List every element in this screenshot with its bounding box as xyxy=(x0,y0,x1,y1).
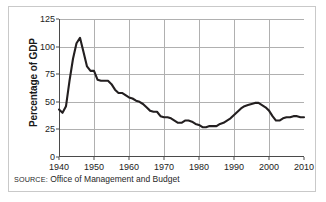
x-tick-mark xyxy=(304,157,305,160)
data-series-line xyxy=(59,19,304,157)
x-tick-mark xyxy=(94,157,95,160)
source-text: Office of Management and Budget xyxy=(50,174,179,184)
source-label: SOURCE: xyxy=(14,175,48,184)
x-tick-mark xyxy=(164,157,165,160)
y-tick-label: 75 xyxy=(45,69,55,79)
y-tick-label: 0 xyxy=(50,152,55,162)
x-tick-mark xyxy=(199,157,200,160)
x-tick-label: 2010 xyxy=(294,162,314,172)
y-tick-label: 100 xyxy=(40,42,55,52)
x-tick-label: 1980 xyxy=(189,162,209,172)
y-tick-label: 25 xyxy=(45,124,55,134)
y-tick-label: 125 xyxy=(40,14,55,24)
x-tick-label: 2000 xyxy=(259,162,279,172)
y-axis-title: Percentage of GDP xyxy=(28,23,39,143)
plot-area: 0255075100125 19401950196019701980199020… xyxy=(59,19,304,157)
x-tick-label: 1970 xyxy=(154,162,174,172)
chart-card: Percentage of GDP 0255075100125 19401950… xyxy=(11,9,313,189)
x-tick-mark xyxy=(129,157,130,160)
x-tick-label: 1940 xyxy=(49,162,69,172)
x-tick-label: 1950 xyxy=(84,162,104,172)
x-tick-mark xyxy=(269,157,270,160)
x-tick-label: 1990 xyxy=(224,162,244,172)
figure-container: Percentage of GDP 0255075100125 19401950… xyxy=(0,0,326,202)
x-tick-mark xyxy=(59,157,60,160)
x-tick-mark xyxy=(234,157,235,160)
y-tick-label: 50 xyxy=(45,97,55,107)
source-note: SOURCE: Office of Management and Budget xyxy=(14,174,180,184)
x-tick-label: 1960 xyxy=(119,162,139,172)
